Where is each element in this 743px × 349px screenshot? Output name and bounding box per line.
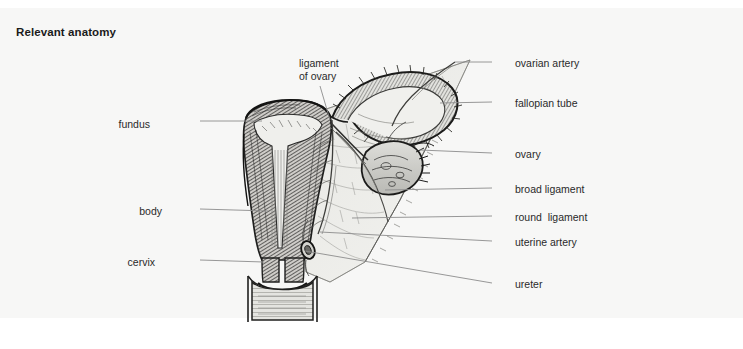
- label-fundus: fundus: [100, 118, 150, 131]
- label-ovarian-artery: ovarian artery: [515, 57, 579, 70]
- label-round-ligament: round ligament: [515, 211, 587, 224]
- screenshot-root: Relevant anatomy: [0, 0, 743, 349]
- label-cervix: cervix: [105, 256, 155, 269]
- label-body: body: [112, 205, 162, 218]
- label-ovary: ovary: [515, 148, 541, 161]
- label-ureter: ureter: [515, 278, 542, 291]
- figure-panel: [0, 8, 743, 318]
- label-broad-ligament: broad ligament: [515, 183, 584, 196]
- label-ligament-of-ovary: ligament of ovary: [299, 57, 339, 83]
- page-title: Relevant anatomy: [16, 26, 116, 38]
- label-uterine-artery: uterine artery: [515, 236, 577, 249]
- label-fallopian-tube: fallopian tube: [515, 97, 577, 110]
